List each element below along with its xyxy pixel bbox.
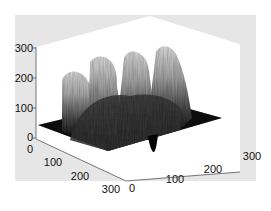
y-tick-200: 200 — [71, 170, 89, 182]
x-tick-100: 100 — [166, 173, 184, 185]
z-tick-300: 300 — [15, 42, 33, 54]
y-tick-0: 0 — [27, 143, 33, 155]
y-tick-300: 300 — [102, 183, 120, 195]
x-tick-200: 200 — [204, 163, 222, 175]
surface-plot: 300 200 100 0 0 100 200 300 0 100 200 30… — [0, 0, 271, 211]
z-tick-200: 200 — [15, 72, 33, 84]
z-tick-0: 0 — [27, 131, 33, 143]
y-tick-100: 100 — [44, 156, 62, 168]
x-tick-0: 0 — [129, 182, 135, 194]
x-tick-300: 300 — [243, 150, 261, 162]
z-tick-100: 100 — [15, 102, 33, 114]
